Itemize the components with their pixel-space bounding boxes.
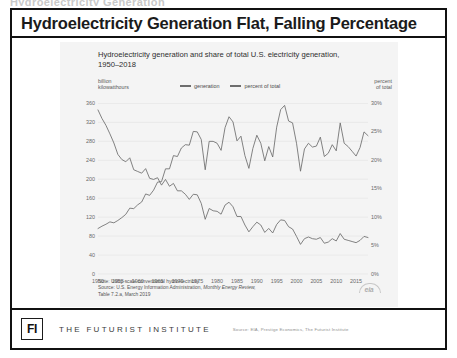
y-axis-right-tick: 0% <box>371 271 379 277</box>
eia-logo-label: eia <box>356 286 382 293</box>
y-axis-left-tick: 160 <box>86 195 95 201</box>
legend-label-generation: generation <box>194 83 219 89</box>
y-axis-unit-right-line2: of total <box>374 84 392 90</box>
slide-frame: Hydroelectricity Generation Flat, Fallin… <box>10 8 447 350</box>
y-axis-right-tick: 15% <box>371 185 382 191</box>
y-axis-left-tick: 120 <box>86 214 95 220</box>
legend-swatch-icon <box>230 85 241 86</box>
eia-logo-icon: eia <box>356 282 382 297</box>
legend-swatch-icon <box>180 85 191 86</box>
y-axis-left-tick: 240 <box>86 157 95 163</box>
futurist-institute-logo: FI <box>21 318 43 340</box>
y-axis-left-tick: 80 <box>89 233 95 239</box>
slide-footer: FI THE FUTURIST INSTITUTE Source: EIA, P… <box>12 308 445 348</box>
footnote-source-prefix: Source: U.S. Energy Information Administ… <box>98 285 203 290</box>
page-title: Hydroelectricity Generation Flat, Fallin… <box>21 14 417 33</box>
clipped-top-text: Hydroelectricity Generation <box>10 0 270 6</box>
y-axis-unit-right: percent of total <box>374 78 392 90</box>
legend-label-percent-of-total: percent of total <box>244 83 280 89</box>
y-axis-left-tick: 320 <box>86 119 95 125</box>
plot-svg <box>98 94 368 274</box>
legend-item-generation: generation <box>180 83 219 89</box>
y-axis-unit-left: billion kilowatthours <box>98 78 129 90</box>
chart-legend: generation percent of total <box>180 83 280 89</box>
plot-area: 04080120160200240280320360 0%5%10%15%20%… <box>98 94 368 274</box>
footnote-source-italic: Monthly Energy Review, <box>203 285 255 290</box>
y-axis-left-tick: 40 <box>89 252 95 258</box>
legend-item-percent-of-total: percent of total <box>230 83 280 89</box>
footer-brand-name: THE FUTURIST INSTITUTE <box>59 325 211 334</box>
y-axis-unit-left-line2: kilowatthours <box>98 84 129 90</box>
gridlines <box>98 103 368 274</box>
y-axis-left-tick: 0 <box>92 271 95 277</box>
slide-title-bar: Hydroelectricity Generation Flat, Fallin… <box>12 10 445 38</box>
series-line-percent-of-total <box>98 110 368 244</box>
y-axis-left-tick: 360 <box>86 100 95 106</box>
y-axis-right-tick: 30% <box>371 100 382 106</box>
y-axis-left-tick: 200 <box>86 176 95 182</box>
series-line-generation <box>98 105 368 228</box>
footer-source-note: Source: EIA, Prestige Economics, The Fut… <box>233 327 349 332</box>
y-axis-left-tick: 280 <box>86 138 95 144</box>
y-axis-right-tick: 25% <box>371 128 382 134</box>
y-axis-right-tick: 10% <box>371 214 382 220</box>
chart-panel: Hydroelectricity generation and share of… <box>60 42 398 307</box>
chart-footnote: Note: Utility-scale conventional hydroel… <box>98 279 343 298</box>
footnote-table: Table 7.2.a, March 2019 <box>98 292 343 298</box>
y-axis-right-tick: 5% <box>371 242 379 248</box>
chart-title: Hydroelectricity generation and share of… <box>98 50 358 70</box>
y-axis-right-tick: 20% <box>371 157 382 163</box>
